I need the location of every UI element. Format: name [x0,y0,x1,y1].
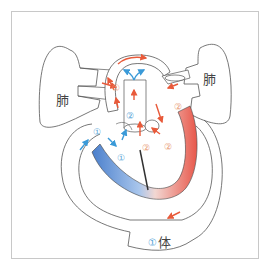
marker-2-blue: ② [126,112,134,121]
body-marker: ① [148,238,157,248]
lung-right-label: 肺 [203,73,216,86]
lung-left-label: 肺 [56,94,69,107]
body-label: 体 [158,236,171,249]
marker-2-orange-right: ② [164,143,172,152]
marker-1-orange: ① [112,84,120,93]
heart-circulation-diagram [0,0,270,270]
marker-2-orange-upper: ② [174,103,182,112]
marker-1-blue-lower: ① [117,154,125,163]
marker-1-blue-left: ① [93,128,101,137]
marker-2-orange-valve: ② [142,144,150,153]
